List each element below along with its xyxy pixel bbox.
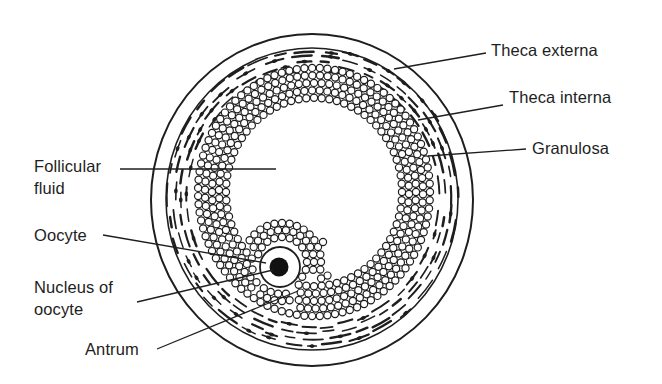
- granulosa-cell-layer: [195, 64, 434, 319]
- label-theca-externa: Theca externa: [491, 40, 598, 61]
- label-nucleus-line1: Nucleus of: [34, 277, 113, 298]
- label-oocyte: Oocyte: [34, 225, 87, 246]
- label-follicular-fluid-line1: Follicular: [34, 156, 101, 177]
- oocyte: [260, 247, 300, 287]
- label-nucleus-line2: oocyte: [34, 299, 83, 320]
- label-granulosa: Granulosa: [532, 138, 609, 159]
- oocyte-nucleus: [270, 258, 289, 277]
- label-antrum: Antrum: [85, 339, 139, 360]
- leader-theca-externa: [394, 53, 486, 69]
- label-follicular-fluid-line2: fluid: [34, 178, 65, 199]
- label-theca-interna: Theca interna: [509, 87, 611, 108]
